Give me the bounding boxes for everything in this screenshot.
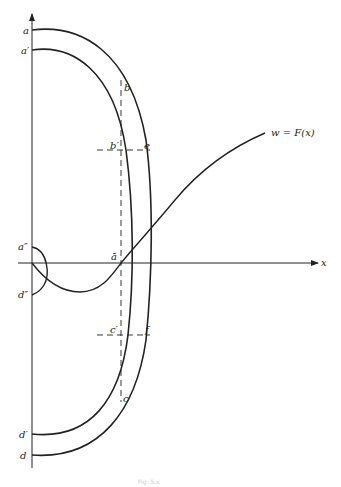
diagram-svg: a a′ a″ d″ ā b b′ e c′ f c d′ d w = F(x)… xyxy=(0,0,341,487)
label-d-prime: d′ xyxy=(19,429,28,440)
label-function: w = F(x) xyxy=(271,127,315,138)
label-d-double-prime: d″ xyxy=(18,289,28,300)
label-b: b xyxy=(124,82,130,93)
diagram-canvas: a a′ a″ d″ ā b b′ e c′ f c d′ d w = F(x)… xyxy=(0,0,341,487)
label-f: f xyxy=(144,324,151,335)
label-a: a xyxy=(23,25,29,36)
label-a-bar: ā xyxy=(111,251,117,262)
label-d: d xyxy=(20,450,26,461)
label-a-prime: a′ xyxy=(21,45,30,56)
outer-curve-a-d xyxy=(32,29,151,455)
label-a-double-prime: a″ xyxy=(18,241,28,252)
label-c-prime: c′ xyxy=(110,324,119,335)
label-e: e xyxy=(144,140,150,151)
label-b-prime: b′ xyxy=(110,140,119,151)
inner-curve-a-prime-d-prime xyxy=(32,49,132,434)
label-x-axis: x xyxy=(321,257,327,268)
label-c: c xyxy=(123,393,129,404)
figure-caption: Fig. 5.x xyxy=(138,478,160,486)
